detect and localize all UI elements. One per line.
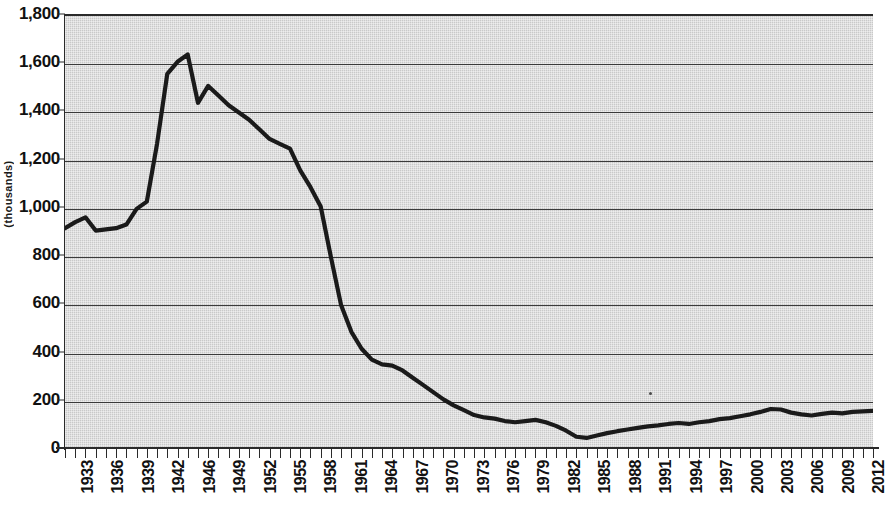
x-axis-tick xyxy=(443,449,444,458)
x-axis-tick xyxy=(157,449,158,458)
x-axis-tick xyxy=(546,449,547,458)
y-axis-tick xyxy=(57,158,65,159)
x-axis-label: 2003 xyxy=(779,460,797,494)
x-axis-label: 1967 xyxy=(414,460,432,494)
y-axis-tick xyxy=(57,303,65,304)
y-axis-tick xyxy=(57,399,65,400)
x-axis-tick xyxy=(812,449,813,458)
x-axis-tick xyxy=(607,449,608,458)
x-axis-tick xyxy=(730,449,731,458)
x-axis-label: 1985 xyxy=(596,460,614,494)
x-axis-tick xyxy=(116,449,117,458)
x-axis-ticks xyxy=(0,449,879,459)
x-axis-label: 2006 xyxy=(809,460,827,494)
x-axis-tick xyxy=(137,449,138,458)
x-axis-tick xyxy=(229,449,230,458)
x-axis-tick xyxy=(464,449,465,458)
y-axis-label: 1,600 xyxy=(2,52,60,72)
y-axis-label: 400 xyxy=(2,342,60,362)
x-axis-tick xyxy=(280,449,281,458)
x-axis-tick xyxy=(484,449,485,458)
x-axis-label: 1979 xyxy=(535,460,553,494)
x-axis-tick xyxy=(147,449,148,458)
x-axis-tick xyxy=(597,449,598,458)
x-axis-tick xyxy=(699,449,700,458)
x-axis-tick xyxy=(760,449,761,458)
x-axis-tick xyxy=(433,449,434,458)
x-axis-tick xyxy=(556,449,557,458)
y-axis-label: 1,400 xyxy=(2,100,60,120)
y-axis-labels: 02004006008001,0001,2001,4001,6001,800 xyxy=(0,0,60,506)
y-axis-label: 200 xyxy=(2,390,60,410)
x-axis-tick xyxy=(566,449,567,458)
x-axis-tick xyxy=(689,449,690,458)
x-axis-tick xyxy=(628,449,629,458)
x-axis-label: 1982 xyxy=(566,460,584,494)
x-axis-label: 1949 xyxy=(231,460,249,494)
x-axis-tick xyxy=(290,449,291,458)
x-axis-tick xyxy=(75,449,76,458)
x-axis-tick xyxy=(65,449,66,458)
x-axis-tick xyxy=(167,449,168,458)
x-axis-tick xyxy=(832,449,833,458)
x-axis-tick xyxy=(331,449,332,458)
x-axis-tick xyxy=(382,449,383,458)
x-axis-tick xyxy=(853,449,854,458)
x-axis-tick xyxy=(495,449,496,458)
x-axis-tick xyxy=(576,449,577,458)
x-axis-tick xyxy=(85,449,86,458)
y-axis-label: 1,800 xyxy=(2,4,60,24)
x-axis-label: 2000 xyxy=(749,460,767,494)
x-axis-tick xyxy=(239,449,240,458)
x-axis-tick xyxy=(392,449,393,458)
x-axis-tick xyxy=(106,449,107,458)
x-axis-tick xyxy=(198,449,199,458)
data-series-line xyxy=(65,16,873,448)
x-axis-tick xyxy=(709,449,710,458)
x-axis-tick xyxy=(126,449,127,458)
x-axis-tick xyxy=(188,449,189,458)
x-axis-tick xyxy=(454,449,455,458)
x-axis-label: 1976 xyxy=(505,460,523,494)
y-axis-tick xyxy=(57,351,65,352)
x-axis-tick xyxy=(362,449,363,458)
x-axis-tick xyxy=(515,449,516,458)
x-axis-tick xyxy=(310,449,311,458)
x-axis-tick xyxy=(535,449,536,458)
x-axis-tick xyxy=(638,449,639,458)
y-axis-tick xyxy=(57,62,65,63)
x-axis-tick xyxy=(750,449,751,458)
x-axis-tick xyxy=(648,449,649,458)
x-axis-label: 1994 xyxy=(688,460,706,494)
x-axis-tick xyxy=(668,449,669,458)
x-axis-tick xyxy=(259,449,260,458)
x-axis-tick xyxy=(218,449,219,458)
x-axis-tick xyxy=(771,449,772,458)
x-axis-tick xyxy=(863,449,864,458)
x-axis-tick xyxy=(413,449,414,458)
x-axis-label: 1933 xyxy=(79,460,97,494)
x-axis-label: 1961 xyxy=(353,460,371,494)
x-axis-tick xyxy=(587,449,588,458)
plot-area xyxy=(65,14,873,448)
x-axis-tick xyxy=(178,449,179,458)
x-axis-label: 1991 xyxy=(657,460,675,494)
x-axis-tick xyxy=(842,449,843,458)
x-axis-label: 1936 xyxy=(109,460,127,494)
y-axis-tick xyxy=(57,206,65,207)
x-axis-tick xyxy=(208,449,209,458)
x-axis-label: 1997 xyxy=(718,460,736,494)
x-axis-tick xyxy=(96,449,97,458)
x-axis-tick xyxy=(341,449,342,458)
y-axis-tick xyxy=(57,448,65,449)
x-axis-label: 1946 xyxy=(201,460,219,494)
x-axis-tick xyxy=(617,449,618,458)
x-axis-tick xyxy=(372,449,373,458)
y-axis-label: 1,000 xyxy=(2,197,60,217)
x-axis-tick xyxy=(403,449,404,458)
x-axis-label: 1973 xyxy=(475,460,493,494)
x-axis-label: 2012 xyxy=(870,460,888,494)
x-axis-tick xyxy=(505,449,506,458)
x-axis-tick xyxy=(822,449,823,458)
